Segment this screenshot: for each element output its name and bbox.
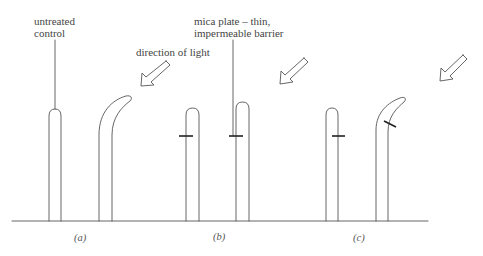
light-arrow-b-icon — [280, 58, 308, 84]
direction-of-light-label: direction of light — [136, 47, 210, 58]
coleoptile-a-control — [49, 109, 61, 221]
untreated-control-label-line1: untreated — [34, 16, 75, 27]
mica-plate-c-bent — [384, 121, 396, 127]
untreated-control-label-line2: control — [34, 28, 65, 39]
light-arrow-c-icon — [440, 55, 467, 81]
mica-plate-label-line1: mica plate – thin, — [194, 16, 270, 27]
panel-caption-c: (c) — [353, 232, 365, 243]
panel-caption-a: (a) — [74, 232, 86, 243]
coleoptile-c-bent — [376, 97, 405, 221]
coleoptile-c-straight — [326, 108, 338, 221]
coleoptile-b-left — [186, 108, 199, 221]
panel-caption-b: (b) — [213, 231, 225, 242]
coleoptile-a-bent — [99, 96, 131, 221]
mica-plate-label-line2: impermeable barrier — [194, 28, 283, 39]
light-arrow-a-icon — [141, 61, 170, 86]
coleoptile-b-right — [236, 102, 249, 221]
